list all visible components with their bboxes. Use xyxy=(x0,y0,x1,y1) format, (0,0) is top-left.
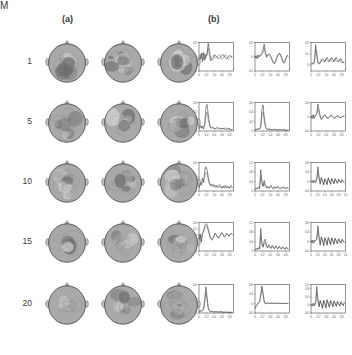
plot-frame xyxy=(199,223,234,252)
svg-text:0.8: 0.8 xyxy=(340,315,344,319)
svg-text:0.4: 0.4 xyxy=(305,170,309,174)
scalp-map-cell xyxy=(156,218,202,266)
x-axis-ticks: 00.20.40.60.8 xyxy=(254,313,288,319)
svg-text:0: 0 xyxy=(307,63,309,67)
svg-text:0.2: 0.2 xyxy=(205,253,209,257)
svg-text:0: 0 xyxy=(310,315,312,319)
nose-marker xyxy=(65,41,69,44)
line-plot-cell: -0.200.2 00.20.40.60.8 xyxy=(242,40,292,78)
y-axis-ticks: 00.10.2 xyxy=(305,41,311,68)
panel-b-label: (b) xyxy=(208,14,220,24)
x-axis-ticks: 00.20.40.60.8 xyxy=(254,71,288,77)
svg-text:0.4: 0.4 xyxy=(325,133,329,137)
svg-text:0.4: 0.4 xyxy=(249,292,253,296)
plot-frame xyxy=(311,163,346,192)
scalp-map-cell xyxy=(100,218,146,266)
line-plot-m15-c3: -0.400.40.8 00.20.40.60.81.0 xyxy=(298,220,348,258)
svg-text:0.8: 0.8 xyxy=(228,253,232,257)
svg-text:0.6: 0.6 xyxy=(276,315,280,319)
line-plot-m10-c2: 00.40.81.2 00.20.40.60.8 xyxy=(242,160,292,198)
y-axis-ticks: -0.400.40.8 xyxy=(304,221,311,254)
nose-marker xyxy=(177,41,181,44)
x-axis-ticks: 00.20.40.60.8 xyxy=(198,131,232,137)
scalp-map-cell xyxy=(44,280,90,328)
svg-text:-0.4: -0.4 xyxy=(304,189,309,193)
svg-text:0.4: 0.4 xyxy=(325,315,329,319)
nose-marker xyxy=(65,161,69,164)
plot-frame xyxy=(255,43,290,72)
svg-text:0.2: 0.2 xyxy=(249,120,253,124)
svg-text:0.2: 0.2 xyxy=(261,133,265,137)
svg-text:0.8: 0.8 xyxy=(284,253,288,257)
svg-text:0.8: 0.8 xyxy=(305,221,309,225)
plot-frame xyxy=(311,103,346,132)
svg-text:0.4: 0.4 xyxy=(213,315,217,319)
figure-root: (a) (b) M 1 -0.200.2 00.20.40.60.8 xyxy=(0,0,352,355)
svg-text:0.6: 0.6 xyxy=(220,193,224,197)
scalp-map-cell xyxy=(44,218,90,266)
svg-text:0.6: 0.6 xyxy=(332,133,336,137)
nose-marker xyxy=(65,101,69,104)
svg-text:0.8: 0.8 xyxy=(305,287,309,291)
svg-text:0: 0 xyxy=(254,253,256,257)
svg-text:0.6: 0.6 xyxy=(276,133,280,137)
scalp-map-cell xyxy=(100,280,146,328)
topomap-m10-c2 xyxy=(100,158,146,206)
svg-text:0: 0 xyxy=(310,133,312,137)
svg-text:0.4: 0.4 xyxy=(269,133,273,137)
svg-text:0.4: 0.4 xyxy=(249,110,253,114)
y-axis-ticks: 00.40.81.2 xyxy=(249,161,255,194)
svg-text:0.6: 0.6 xyxy=(332,315,336,319)
svg-text:0: 0 xyxy=(254,133,256,137)
svg-text:0.4: 0.4 xyxy=(269,315,273,319)
x-axis-ticks: 00.20.40.60.81.0 xyxy=(310,251,348,257)
x-axis-ticks: 00.20.40.60.8 xyxy=(254,251,288,257)
svg-text:-0.4: -0.4 xyxy=(304,129,309,133)
svg-text:0.6: 0.6 xyxy=(276,73,280,77)
svg-text:0.8: 0.8 xyxy=(284,133,288,137)
nose-marker xyxy=(65,283,69,286)
y-axis-ticks: 00.20.40.6 xyxy=(249,101,255,134)
svg-text:0.6: 0.6 xyxy=(220,253,224,257)
nose-marker xyxy=(177,161,181,164)
svg-text:0.2: 0.2 xyxy=(261,193,265,197)
svg-text:0: 0 xyxy=(310,193,312,197)
svg-text:0.2: 0.2 xyxy=(305,41,309,45)
svg-text:0.4: 0.4 xyxy=(305,230,309,234)
svg-text:-0.4: -0.4 xyxy=(248,311,253,315)
line-plot-m1-c2: -0.200.2 00.20.40.60.8 xyxy=(242,40,292,78)
scalp-map-cell xyxy=(44,38,90,86)
svg-text:0.6: 0.6 xyxy=(249,101,253,105)
nose-marker xyxy=(177,101,181,104)
plot-frame xyxy=(255,103,290,132)
svg-text:0.6: 0.6 xyxy=(332,73,336,77)
line-plot-cell: -0.400.40.8 00.20.40.60.8 xyxy=(242,282,292,320)
svg-text:0.4: 0.4 xyxy=(249,180,253,184)
y-axis-ticks: -0.400.40.81.0 xyxy=(304,283,311,316)
svg-text:0.4: 0.4 xyxy=(323,193,327,197)
svg-text:0.4: 0.4 xyxy=(305,295,309,299)
line-plot-cell: -0.400.40.8 00.20.40.60.81.0 xyxy=(298,220,348,258)
svg-text:0.2: 0.2 xyxy=(205,133,209,137)
topomap-m1-c3 xyxy=(156,38,202,86)
scalp-map-cell xyxy=(156,280,202,328)
svg-text:0.4: 0.4 xyxy=(213,253,217,257)
line-plot-cell: -0.400.40.8 00.20.40.60.81.0 xyxy=(298,160,348,198)
svg-text:0.4: 0.4 xyxy=(269,73,273,77)
scalp-map-cell xyxy=(156,158,202,206)
line-plot-m1-c3: 00.10.2 00.20.40.60.8 xyxy=(298,40,348,78)
x-axis-ticks: 00.20.40.60.8 xyxy=(198,191,232,197)
svg-text:0.8: 0.8 xyxy=(249,230,253,234)
svg-text:0.1: 0.1 xyxy=(305,52,309,56)
line-plot-cell: -0.400.40.81.0 00.20.40.60.8 xyxy=(298,282,348,320)
scalp-map-cell xyxy=(44,98,90,146)
svg-text:0.8: 0.8 xyxy=(249,170,253,174)
svg-text:0.2: 0.2 xyxy=(261,253,265,257)
x-axis-ticks: 00.20.40.60.8 xyxy=(310,131,344,137)
svg-text:-0.4: -0.4 xyxy=(304,249,309,253)
topomap-m1-c1 xyxy=(44,38,90,86)
svg-text:0.2: 0.2 xyxy=(316,193,320,197)
topomap-m5-c2 xyxy=(100,98,146,146)
svg-text:0.8: 0.8 xyxy=(340,73,344,77)
svg-text:0: 0 xyxy=(254,73,256,77)
